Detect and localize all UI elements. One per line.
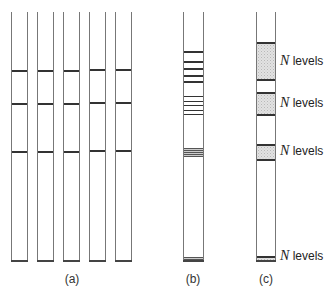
column-bottom [63, 260, 80, 262]
column-bottom [115, 260, 132, 262]
panel-b-caption: (b) [186, 272, 201, 286]
level-line [184, 81, 203, 83]
level-line [90, 150, 105, 152]
level-line [184, 75, 203, 77]
level-line [38, 151, 53, 153]
n-level-band [257, 92, 275, 116]
levels-text: levels [289, 144, 323, 158]
level-line [184, 114, 203, 115]
level-line [184, 51, 203, 53]
level-line [184, 110, 203, 111]
level-line [38, 103, 53, 105]
panel-c-column [256, 12, 276, 262]
band-label-2: N levels [280, 95, 323, 111]
panel-c-caption: (c) [259, 272, 273, 286]
level-line [64, 151, 79, 153]
level-line [116, 102, 131, 104]
column-bottom [183, 260, 204, 262]
panel-a-column-2 [37, 12, 54, 262]
column-bottom [89, 260, 106, 262]
level-line [38, 70, 53, 72]
n-variable: N [280, 248, 289, 263]
n-level-band [257, 144, 275, 161]
level-line [184, 96, 203, 97]
level-line [90, 69, 105, 71]
n-level-band [257, 42, 275, 81]
level-line [116, 150, 131, 152]
band-label-4: N levels [280, 248, 323, 264]
level-line [184, 101, 203, 102]
band-label-3: N levels [280, 143, 323, 159]
level-line [64, 103, 79, 105]
level-line [64, 70, 79, 72]
level-line [12, 70, 27, 72]
levels-text: levels [289, 96, 323, 110]
levels-text: levels [289, 249, 323, 263]
column-bottom [11, 260, 28, 262]
panel-a-column-4 [89, 12, 106, 262]
panel-a-column-5 [115, 12, 132, 262]
panel-a-column-1 [11, 12, 28, 262]
panel-a-column-3 [63, 12, 80, 262]
panel-b-column [183, 12, 204, 262]
dense-level-band [184, 148, 203, 157]
column-bottom [256, 260, 276, 262]
n-variable: N [280, 143, 289, 158]
n-variable: N [280, 53, 289, 68]
column-bottom [37, 260, 54, 262]
level-line [184, 105, 203, 106]
levels-text: levels [289, 54, 323, 68]
level-line [116, 69, 131, 71]
level-line [184, 68, 203, 70]
band-label-1: N levels [280, 53, 323, 69]
level-line [12, 151, 27, 153]
level-line [184, 61, 203, 63]
panel-a-caption: (a) [65, 272, 80, 286]
level-line [12, 103, 27, 105]
n-variable: N [280, 95, 289, 110]
level-line [90, 102, 105, 104]
